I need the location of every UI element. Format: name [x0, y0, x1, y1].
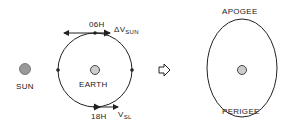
v-prefix: V — [118, 110, 124, 119]
hollow-right-arrow-icon — [159, 64, 170, 76]
time-label-06h: 06H — [89, 20, 105, 29]
delta-v-prefix: ΔV — [114, 25, 125, 34]
sun-label: SUN — [16, 82, 34, 91]
v-sl-label: VSL — [118, 110, 132, 119]
apogee-label: APOGEE — [222, 7, 258, 16]
time-label-18h: 18H — [91, 112, 107, 121]
sun-icon — [20, 64, 31, 75]
earth-icon-right — [238, 66, 247, 75]
earth-label: EARTH — [79, 80, 107, 89]
orbit-point-right — [130, 68, 134, 72]
delta-v-subscript: SUN — [125, 29, 139, 35]
perigee-label: PERIGEE — [222, 107, 260, 116]
delta-v-sun-label: ΔVSUN — [114, 25, 139, 34]
v-subscript: SL — [124, 114, 132, 120]
earth-icon — [91, 66, 100, 75]
orbit-point-left — [56, 68, 60, 72]
